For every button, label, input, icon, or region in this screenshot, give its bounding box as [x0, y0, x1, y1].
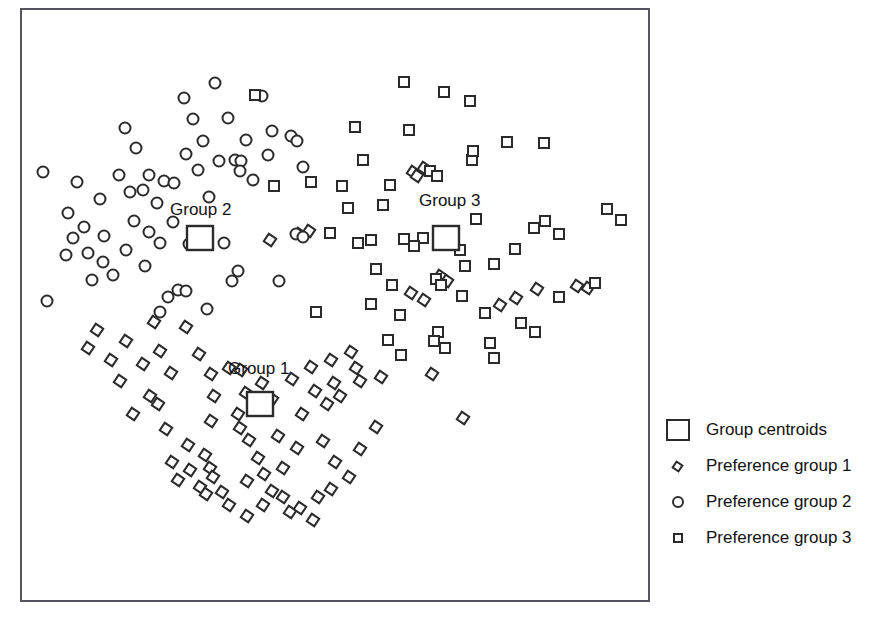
annotation-group-3: Group 3 — [419, 192, 480, 209]
legend-circle-icon — [666, 496, 706, 508]
legend-item-centroids: Group centroids — [666, 412, 876, 448]
scatter-plot-figure: Group 1 Group 2 Group 3 Group centroids … — [0, 0, 886, 621]
legend-square-icon — [666, 533, 706, 543]
legend-item-group-2: Preference group 2 — [666, 484, 876, 520]
legend-label-centroids: Group centroids — [706, 420, 827, 440]
legend-label-group-2: Preference group 2 — [706, 492, 852, 512]
legend-rotated-square-icon — [666, 462, 706, 471]
legend-label-group-1: Preference group 1 — [706, 456, 852, 476]
legend-large-square-icon — [666, 419, 706, 441]
chart-legend: Group centroids Preference group 1 Prefe… — [666, 412, 876, 556]
annotation-group-1: Group 1 — [228, 360, 289, 377]
legend-label-group-3: Preference group 3 — [706, 528, 852, 548]
plot-frame — [20, 8, 650, 602]
legend-item-group-3: Preference group 3 — [666, 520, 876, 556]
annotation-group-2: Group 2 — [170, 201, 231, 218]
legend-item-group-1: Preference group 1 — [666, 448, 876, 484]
